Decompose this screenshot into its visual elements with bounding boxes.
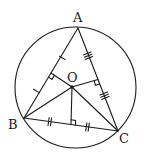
tick-bc-right-1 xyxy=(86,123,87,131)
point-o-dot xyxy=(70,85,74,89)
tick-ab-2 xyxy=(34,89,40,92)
label-b: B xyxy=(8,117,18,132)
segment-oc xyxy=(72,87,118,131)
tick-bc-left-2 xyxy=(50,118,51,126)
geometry-diagram: A B C O xyxy=(0,0,148,156)
perpendicular-o-bc xyxy=(71,87,72,125)
tick-bc-left-1 xyxy=(48,118,49,126)
label-o: O xyxy=(67,70,78,85)
label-a: A xyxy=(72,10,83,25)
label-c: C xyxy=(119,131,129,146)
segment-ob xyxy=(24,87,72,118)
diagram-canvas: A B C O xyxy=(0,0,148,156)
tick-bc-right-2 xyxy=(88,123,89,131)
